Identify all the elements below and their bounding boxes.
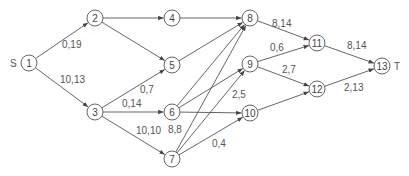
network-diagram: 0,1910,130,70,1410,108,82,50,48,140,62,7… [0,0,409,176]
node-9: 9 [242,56,258,72]
node-2: 2 [87,10,103,26]
node-label: 1 [26,58,32,69]
node-label: 6 [169,107,175,118]
node-label: 7 [169,154,175,165]
source-label: S [10,58,17,69]
nodes-layer: 12345678910111213 [21,10,390,167]
edge-label-3-6: 0,14 [122,98,142,109]
edge-10-12 [258,92,309,110]
edge-5-8 [179,22,243,60]
edge-label-12-13: 2,13 [344,82,364,93]
node-3: 3 [87,104,103,120]
node-label: 2 [92,13,98,24]
node-label: 8 [247,13,253,24]
edge-label-11-13: 8,14 [347,40,367,51]
edge-label-7-9: 2,5 [232,89,246,100]
edge-label-9-11: 0,6 [270,42,284,53]
node-6: 6 [164,104,180,120]
node-label: 3 [92,107,98,118]
node-1: 1 [21,55,37,71]
edge-label-9-12: 2,7 [282,64,296,75]
edge-label-8-11: 8,14 [272,18,292,29]
edge-label-1-2: 0,19 [62,39,82,50]
node-label: 5 [169,60,175,71]
edge-label-7-10: 0,4 [212,138,226,149]
node-8: 8 [242,10,258,26]
node-label: 4 [169,13,175,24]
node-label: 13 [376,61,388,72]
edge-label-7-8: 8,8 [168,124,182,135]
node-label: 12 [311,84,323,95]
node-12: 12 [309,81,325,97]
edge-7-10 [179,117,243,155]
node-label: 9 [247,59,253,70]
node-5: 5 [164,57,180,73]
node-label: 10 [244,108,256,119]
edge-label-3-7: 10,10 [136,125,161,136]
node-7: 7 [164,151,180,167]
edge-label-1-3: 10,13 [60,74,85,85]
node-10: 10 [242,105,258,121]
node-11: 11 [309,35,325,51]
sink-label: T [394,61,400,72]
edge-7-9 [177,71,245,153]
node-4: 4 [164,10,180,26]
node-13: 13 [374,58,390,74]
node-label: 11 [312,38,323,49]
edge-label-3-5: 0,7 [140,84,154,95]
edge-2-5 [102,22,165,60]
